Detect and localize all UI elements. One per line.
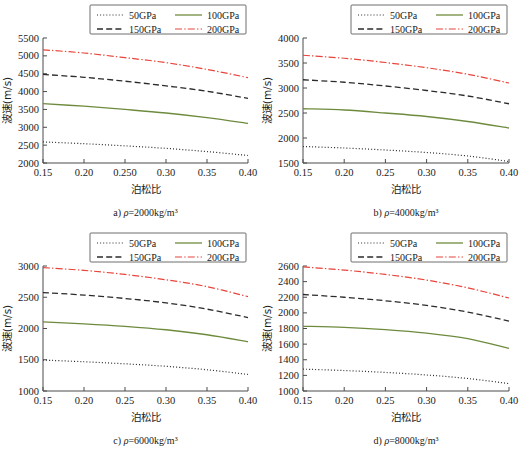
x-tick-label-0: 0.15 [34,167,52,178]
figure-grid: 200025003000350040004500500055000.150.20… [0,0,521,455]
y-tick-label-6: 5000 [18,50,39,61]
x-tick-label-0: 0.15 [34,395,52,406]
y-tick-label-4: 3500 [278,58,299,69]
x-tick-label-4: 0.35 [459,395,477,406]
x-tick-label-1: 0.20 [335,167,353,178]
legend-label-50GPa: 50GPa [129,10,157,21]
series-line-100GPa [303,326,509,348]
legend-label-50GPa: 50GPa [390,10,418,21]
x-axis-title: 泊松比 [131,183,161,195]
legend-label-50GPa: 50GPa [129,238,157,249]
x-tick-label-1: 0.20 [75,167,93,178]
chart-panel-a: 200025003000350040004500500055000.150.20… [0,0,260,228]
x-tick-label-0: 0.15 [294,395,312,406]
y-tick-label-4: 3000 [18,261,39,272]
y-tick-label-4: 1800 [278,323,299,334]
y-tick-label-2: 3000 [18,122,39,133]
chart-panel-d: 1000120014001600180020002200240026000.15… [260,228,521,455]
chart-panel-b: 1500200025003000350040000.150.200.250.30… [260,0,521,228]
series-line-200GPa [303,267,509,298]
y-axis-title: 波速(m/s) [261,77,273,124]
series-line-50GPa [43,360,248,374]
y-tick-label-7: 5500 [18,33,39,44]
legend-label-200GPa: 200GPa [207,252,240,263]
y-axis-title: 波速(m/s) [1,77,13,124]
x-tick-label-5: 0.40 [239,395,257,406]
series-line-100GPa [43,322,248,342]
x-tick-label-5: 0.40 [239,167,257,178]
y-tick-label-4: 4000 [18,86,39,97]
legend-label-200GPa: 200GPa [468,24,501,35]
y-tick-label-1: 1500 [18,354,39,365]
series-line-50GPa [43,142,248,156]
y-tick-label-1: 2000 [278,133,299,144]
series-line-200GPa [43,268,248,297]
series-line-50GPa [303,369,509,383]
series-line-100GPa [43,104,248,124]
series-line-150GPa [43,293,248,318]
x-tick-label-2: 0.25 [376,167,394,178]
y-tick-label-3: 2500 [18,292,39,303]
legend-label-150GPa: 150GPa [129,252,162,263]
y-tick-label-1: 2500 [18,140,39,151]
legend-label-200GPa: 200GPa [207,24,240,35]
series-line-100GPa [303,109,509,128]
y-tick-label-2: 1400 [278,354,299,365]
y-axis-title: 波速(m/s) [1,305,13,352]
series-line-50GPa [303,147,509,162]
x-tick-label-2: 0.250 [113,167,137,178]
y-tick-label-2: 2000 [18,323,39,334]
legend-label-100GPa: 100GPa [207,238,240,249]
y-tick-label-5: 2000 [278,307,299,318]
y-tick-label-8: 2600 [278,261,299,272]
panel-caption: d) ρ=8000kg/m³ [374,435,439,447]
x-tick-label-2: 0.25 [376,395,394,406]
x-tick-label-4: 0.35 [198,167,216,178]
x-tick-label-3: 0.30 [157,167,175,178]
axis-frame [303,266,509,391]
y-tick-label-3: 1600 [278,339,299,350]
x-tick-label-2: 0.25 [116,395,134,406]
series-line-150GPa [303,295,509,322]
legend-label-50GPa: 50GPa [390,238,418,249]
x-tick-label-5: 0.40 [500,395,518,406]
x-tick-label-0: 0.15 [294,167,312,178]
y-tick-label-5: 4500 [18,68,39,79]
x-tick-label-3: 0.30 [157,395,175,406]
y-tick-label-5: 4000 [278,33,299,44]
panel-caption: c) ρ=6000kg/m³ [113,435,177,447]
x-tick-label-3: 0.30 [417,395,435,406]
x-tick-label-4: 0.35 [198,395,216,406]
x-tick-label-4: 0.35 [459,167,477,178]
x-tick-label-1: 0.20 [335,395,353,406]
panel-caption: b) ρ=4000kg/m³ [374,207,439,219]
x-axis-title: 泊松比 [391,183,421,195]
legend-label-150GPa: 150GPa [390,252,423,263]
chart-panel-c: 100015002000250030000.150.200.250.300.35… [0,228,260,455]
y-tick-label-3: 3500 [18,104,39,115]
x-tick-label-1: 0.20 [75,395,93,406]
legend-label-100GPa: 100GPa [468,238,501,249]
y-tick-label-1: 1200 [278,370,299,381]
axis-frame [303,38,509,163]
axis-frame [43,38,248,163]
y-axis-title: 波速(m/s) [261,305,273,352]
series-line-200GPa [43,50,248,78]
x-tick-label-5: 0.40 [500,167,518,178]
series-line-200GPa [303,55,509,83]
legend-label-100GPa: 100GPa [468,10,501,21]
y-tick-label-2: 2500 [278,108,299,119]
legend-label-100GPa: 100GPa [207,10,240,21]
legend-label-150GPa: 150GPa [129,24,162,35]
x-axis-title: 泊松比 [131,411,161,423]
series-line-150GPa [303,80,509,104]
y-tick-label-7: 2400 [278,276,299,287]
panel-caption: a) ρ=2000kg/m³ [113,207,177,219]
legend-label-200GPa: 200GPa [468,252,501,263]
x-tick-label-3: 0.30 [417,167,435,178]
y-tick-label-6: 2200 [278,292,299,303]
series-line-150GPa [43,74,248,98]
x-axis-title: 泊松比 [391,411,421,423]
y-tick-label-3: 3000 [278,83,299,94]
legend-label-150GPa: 150GPa [390,24,423,35]
